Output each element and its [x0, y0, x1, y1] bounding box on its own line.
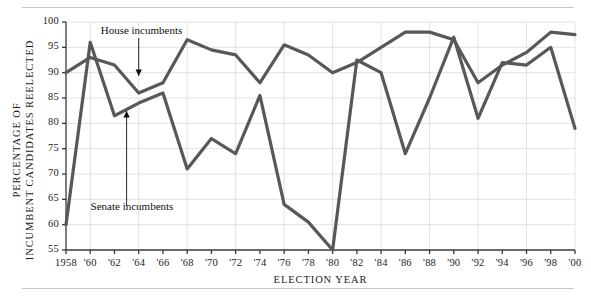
x-tick-label: '00 [569, 257, 582, 268]
y-tick-label: 65 [48, 192, 59, 203]
x-tick-label: '92 [472, 257, 485, 268]
annotation-house-incumbents: House incumbents [101, 24, 183, 36]
series-line-senate [66, 37, 575, 250]
gridlines [66, 22, 575, 250]
x-tick-label: '88 [423, 257, 436, 268]
x-tick-label: '94 [496, 257, 509, 268]
x-tick-label: '78 [302, 257, 315, 268]
x-tick-label: '68 [181, 257, 194, 268]
x-tick-label: '60 [84, 257, 97, 268]
line-chart-plot: PERCENTAGE OF INCUMBENT CANDIDATES REELE… [0, 0, 591, 297]
x-tick-label: '80 [326, 257, 339, 268]
annotation-senate-incumbents: Senate incumbents [91, 200, 174, 212]
x-tick-label: '76 [278, 257, 291, 268]
x-tick-label: '70 [205, 257, 218, 268]
x-tick-label: '84 [375, 257, 388, 268]
y-tick-label: 90 [48, 66, 59, 77]
y-tick-label: 95 [48, 40, 59, 51]
y-tick-label: 70 [48, 167, 59, 178]
x-tick-label: '64 [132, 257, 145, 268]
x-tick-label: '72 [229, 257, 242, 268]
svg-text:INCUMBENT CANDIDATES REELECTED: INCUMBENT CANDIDATES REELECTED [24, 40, 35, 260]
chart-figure: PERCENTAGE OF INCUMBENT CANDIDATES REELE… [0, 0, 591, 297]
y-tick-label: 55 [48, 243, 59, 254]
x-tick-label: '90 [447, 257, 460, 268]
y-tick-label: 60 [48, 218, 59, 229]
data-series [66, 32, 575, 250]
x-tick-label: '86 [399, 257, 412, 268]
x-tick-label: '82 [350, 257, 363, 268]
y-tick-label: 100 [43, 15, 59, 26]
x-tick-label: 1958 [55, 257, 77, 268]
x-tick-label: '98 [544, 257, 557, 268]
x-tick-label: '62 [108, 257, 121, 268]
y-axis-title: PERCENTAGE OF INCUMBENT CANDIDATES REELE… [11, 40, 35, 260]
series-line-house [66, 32, 575, 93]
axes [66, 22, 575, 250]
y-tick-label: 80 [48, 116, 59, 127]
y-tick-label: 85 [48, 91, 59, 102]
x-tick-label: '66 [156, 257, 169, 268]
y-tick-label: 75 [48, 142, 59, 153]
x-axis-title: ELECTION YEAR [274, 274, 368, 285]
svg-text:PERCENTAGE OF: PERCENTAGE OF [11, 102, 22, 197]
x-tick-label: '96 [520, 257, 533, 268]
x-tick-label: '74 [253, 257, 266, 268]
